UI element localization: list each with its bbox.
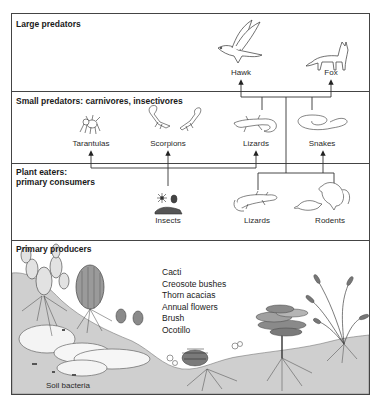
section-title-large-predators: Large predators	[16, 19, 81, 29]
label-snakes: Snakes	[309, 139, 336, 148]
label-rodents: Rodents	[315, 216, 345, 225]
label-lizards-predator: Lizards	[243, 139, 269, 148]
label-soil-bacteria: Soil bacteria	[46, 381, 90, 390]
producer-item: Creosote bushes	[162, 279, 226, 291]
lizard-consumer-icon	[234, 191, 277, 211]
producer-item: Annual flowers	[162, 302, 226, 314]
label-tarantulas: Tarantulas	[73, 139, 110, 148]
label-lizards-consumer: Lizards	[244, 216, 270, 225]
producer-item: Ocotillo	[162, 325, 226, 337]
scorpion-icon	[149, 105, 201, 131]
insects-icon	[155, 193, 182, 214]
section-title-primary-producers: Primary producers	[16, 244, 92, 254]
tarantula-icon	[80, 115, 100, 134]
rodents-icon	[294, 183, 349, 211]
section-title-small-predators: Small predators: carnivores, insectivore…	[16, 96, 183, 106]
producer-item: Brush	[162, 313, 226, 325]
lizard-predator-icon	[234, 115, 276, 132]
label-hawk: Hawk	[231, 68, 251, 77]
food-web-arrows	[0, 0, 381, 406]
label-scorpions: Scorpions	[150, 139, 186, 148]
producer-item: Thorn acacias	[162, 290, 226, 302]
section-title-plant-eaters-line2: primary consumers	[16, 177, 95, 187]
snake-icon	[298, 115, 347, 130]
hawk-icon	[218, 20, 262, 63]
fox-icon	[306, 42, 348, 70]
label-insects: Insects	[155, 216, 180, 225]
section-title-plant-eaters-line1: Plant eaters:	[16, 167, 95, 177]
section-title-plant-eaters: Plant eaters: primary consumers	[16, 167, 95, 187]
producer-item: Cacti	[162, 267, 226, 279]
producers-list: Cacti Creosote bushes Thorn acacias Annu…	[162, 267, 226, 336]
label-fox: Fox	[324, 68, 337, 77]
